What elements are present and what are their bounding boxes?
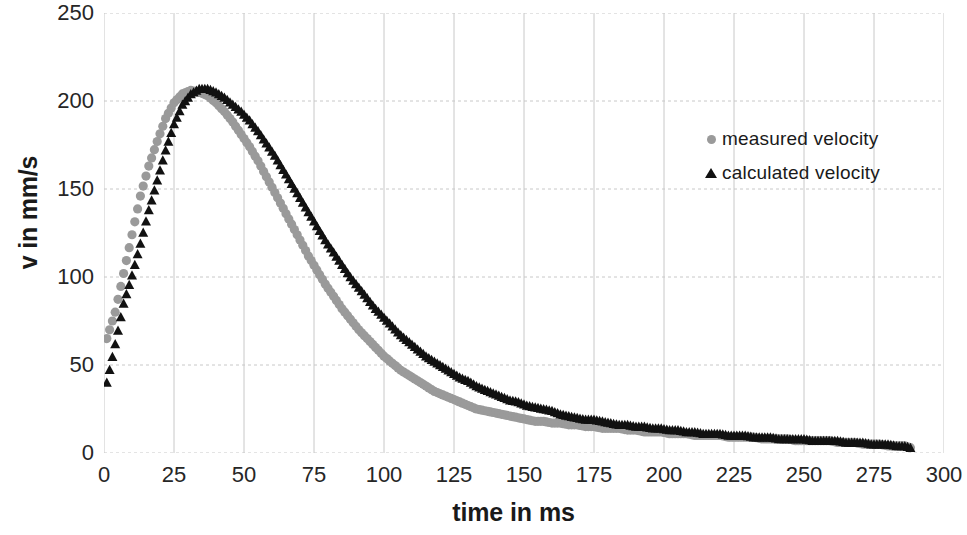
y-tick-label: 200 xyxy=(32,90,94,112)
x-axis-title: time in ms xyxy=(0,498,967,527)
x-tick-label: 50 xyxy=(209,464,279,486)
x-tick-label: 275 xyxy=(839,464,909,486)
circle-marker-icon xyxy=(700,135,722,144)
legend-label-calculated-velocity: calculated velocity xyxy=(722,162,880,184)
x-tick-label: 0 xyxy=(69,464,139,486)
x-tick-label: 200 xyxy=(629,464,699,486)
y-axis-tick-labels: 050100150200250 xyxy=(22,0,94,535)
plot-area xyxy=(104,13,944,453)
x-tick-label: 300 xyxy=(909,464,967,486)
data-series-layer xyxy=(104,13,944,453)
legend-entry-measured-velocity[interactable]: measured velocity xyxy=(700,122,880,156)
x-tick-label: 25 xyxy=(139,464,209,486)
x-tick-label: 100 xyxy=(349,464,419,486)
scatter-chart: v in mm/s 050100150200250 02550751001251… xyxy=(0,0,967,535)
chart-legend: measured velocity calculated velocity xyxy=(700,122,880,190)
x-tick-label: 150 xyxy=(489,464,559,486)
y-tick-label: 100 xyxy=(32,266,94,288)
x-axis-tick-labels: 0255075100125150175200225250275300 xyxy=(0,464,967,494)
y-tick-label: 250 xyxy=(32,2,94,24)
legend-entry-calculated-velocity[interactable]: calculated velocity xyxy=(700,156,880,190)
x-tick-label: 175 xyxy=(559,464,629,486)
x-tick-label: 250 xyxy=(769,464,839,486)
legend-label-measured-velocity: measured velocity xyxy=(722,128,879,150)
triangle-marker-icon xyxy=(700,168,722,178)
x-tick-label: 125 xyxy=(419,464,489,486)
y-tick-label: 0 xyxy=(32,442,94,464)
x-tick-label: 225 xyxy=(699,464,769,486)
y-tick-label: 150 xyxy=(32,178,94,200)
y-tick-label: 50 xyxy=(32,354,94,376)
x-tick-label: 75 xyxy=(279,464,349,486)
